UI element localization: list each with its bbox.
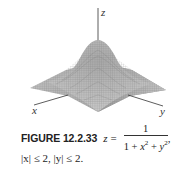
y-axis [128,95,163,106]
figure-label: FIGURE 12.2.33 [21,132,97,144]
figure-caption: FIGURE 12.2.33 z = 1 1 + x2 + y2 , |x| ≤… [21,124,193,164]
domain-y: |y| ≤ 2. [53,152,83,164]
equation: z = 1 1 + x2 + y2 , [103,123,170,153]
z-axis-label: z [100,6,106,18]
y-axis-label: y [159,105,165,117]
numerator: 1 [143,123,148,134]
x-axis [34,95,68,105]
equals-sign: = [111,132,117,144]
domain-text: |x| ≤ 2, |y| ≤ 2. [21,152,193,164]
trailing-comma: , [168,132,171,144]
x-axis-label: x [31,104,37,116]
denominator: 1 + x2 + y2 [124,137,168,153]
domain-x: |x| ≤ 2, [21,152,51,164]
fraction: 1 1 + x2 + y2 [124,123,168,153]
equation-lhs: z [103,132,107,144]
fraction-bar [124,135,168,136]
surface-plot: z x y [0,0,194,120]
